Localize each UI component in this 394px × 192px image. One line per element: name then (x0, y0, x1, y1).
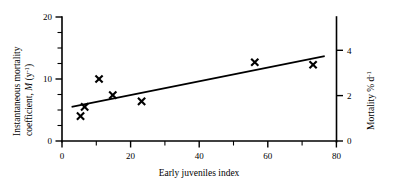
right-axis-title: Mortality % d-1 (365, 71, 376, 130)
bottom-tick-label-60: 60 (263, 151, 273, 161)
right-tick-label-4: 4 (347, 46, 352, 56)
data-point (77, 113, 84, 120)
scatter-plot-svg: 0 10 20 Instantaneous mortality coeffici… (0, 0, 394, 192)
data-point (138, 98, 145, 105)
left-axis-title-line2: coefficient, M (y-1) (23, 64, 35, 136)
chart-figure: 0 10 20 Instantaneous mortality coeffici… (0, 0, 394, 192)
data-point (251, 59, 258, 66)
left-tick-label-10: 10 (43, 74, 53, 84)
data-point (309, 61, 316, 68)
bottom-tick-label-80: 80 (332, 151, 342, 161)
data-point (109, 92, 116, 99)
right-tick-label-2: 2 (347, 91, 352, 101)
data-point-group (77, 59, 317, 120)
regression-line-group (72, 56, 325, 107)
data-point (95, 75, 102, 82)
bottom-tick-label-20: 20 (126, 151, 136, 161)
left-axis-title-line1: Instantaneous mortality (12, 46, 22, 136)
right-axis-group: 0 2 4 Mortality % d-1 (337, 17, 377, 146)
bottom-tick-label-0: 0 (60, 151, 65, 161)
left-tick-label-0: 0 (48, 136, 53, 146)
right-tick-label-0: 0 (347, 136, 352, 146)
regression-fit-line (72, 56, 325, 107)
bottom-tick-label-40: 40 (195, 151, 205, 161)
bottom-axis-title: Early juveniles index (159, 168, 240, 178)
bottom-axis-group: 0 20 40 60 80 Early juveniles index (60, 141, 342, 178)
left-axis-group: 0 10 20 Instantaneous mortality coeffici… (12, 12, 62, 146)
left-tick-label-20: 20 (43, 12, 53, 22)
